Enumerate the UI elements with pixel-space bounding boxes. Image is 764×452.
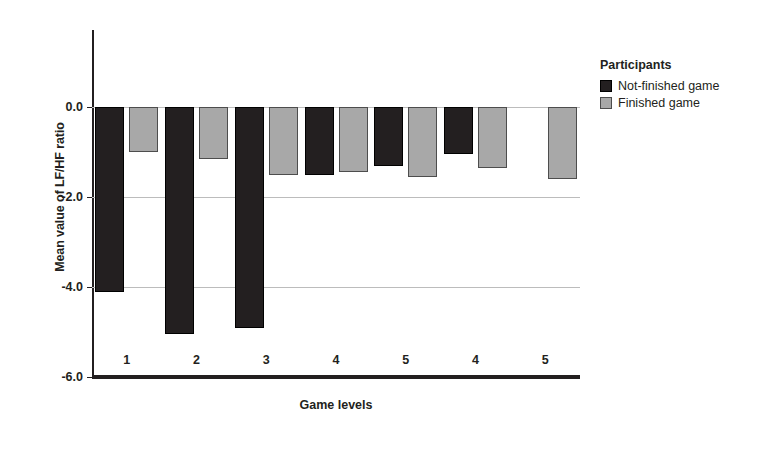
x-tick-label: 5 [542,353,549,367]
legend-label: Not-finished game [618,79,719,93]
bar-not-finished-group-5 [374,107,403,166]
x-axis-title: Game levels [92,398,580,412]
legend-entries-group: Not-finished gameFinished game [600,79,760,110]
bar-finished-group-5 [408,107,437,177]
grid-line [92,377,580,379]
bar-finished-group-1 [129,107,158,152]
y-tick-label: -4.0 [61,280,83,294]
x-tick-label: 3 [263,353,270,367]
bar-not-finished-group-1 [95,107,124,292]
y-tick-mark [87,107,92,108]
y-tick-mark [87,197,92,198]
x-tick-label: 1 [123,353,130,367]
bar-finished-group-4 [339,107,368,172]
bar-not-finished-group-3 [235,107,264,328]
y-tick-label: -6.0 [61,370,83,384]
x-tick-label: 4 [472,353,479,367]
x-tick-label: 4 [333,353,340,367]
chart-legend: Participants Not-finished gameFinished g… [600,58,760,113]
legend-title: Participants [600,58,760,72]
y-tick-label: 0.0 [66,100,83,114]
bar-finished-group-2 [199,107,228,159]
bar-chart-figure: Mean value of LF/HF ratio 0.0-2.0-4.0-6.… [0,0,764,452]
bar-not-finished-group-4 [305,107,334,175]
y-tick-mark [87,287,92,288]
bar-not-finished-group-2 [165,107,194,334]
legend-swatch-icon [600,80,612,92]
y-tick-label: -2.0 [61,190,83,204]
bar-not-finished-group-6 [444,107,473,154]
bar-finished-group-3 [269,107,298,175]
y-tick-mark [87,377,92,378]
x-tick-label: 2 [193,353,200,367]
bar-finished-group-7 [548,107,577,179]
x-axis-line [92,375,580,377]
legend-label: Finished game [618,96,700,110]
x-tick-label: 5 [402,353,409,367]
legend-entry: Not-finished game [600,79,760,93]
legend-entry: Finished game [600,96,760,110]
legend-swatch-icon [600,97,612,109]
plot-area: 0.0-2.0-4.0-6.0 [92,30,580,377]
bar-finished-group-6 [478,107,507,168]
